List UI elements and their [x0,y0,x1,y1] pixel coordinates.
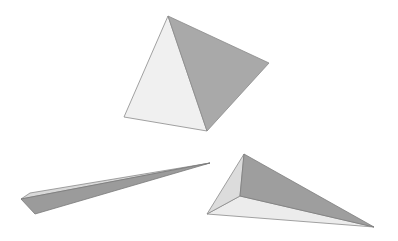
render-canvas [0,0,398,241]
pyramid-bottom-right [207,154,374,227]
sliver-side-face [21,163,210,214]
scene-svg [0,0,398,241]
tetrahedron-top [124,16,269,131]
sliver-prism-left [21,163,210,214]
